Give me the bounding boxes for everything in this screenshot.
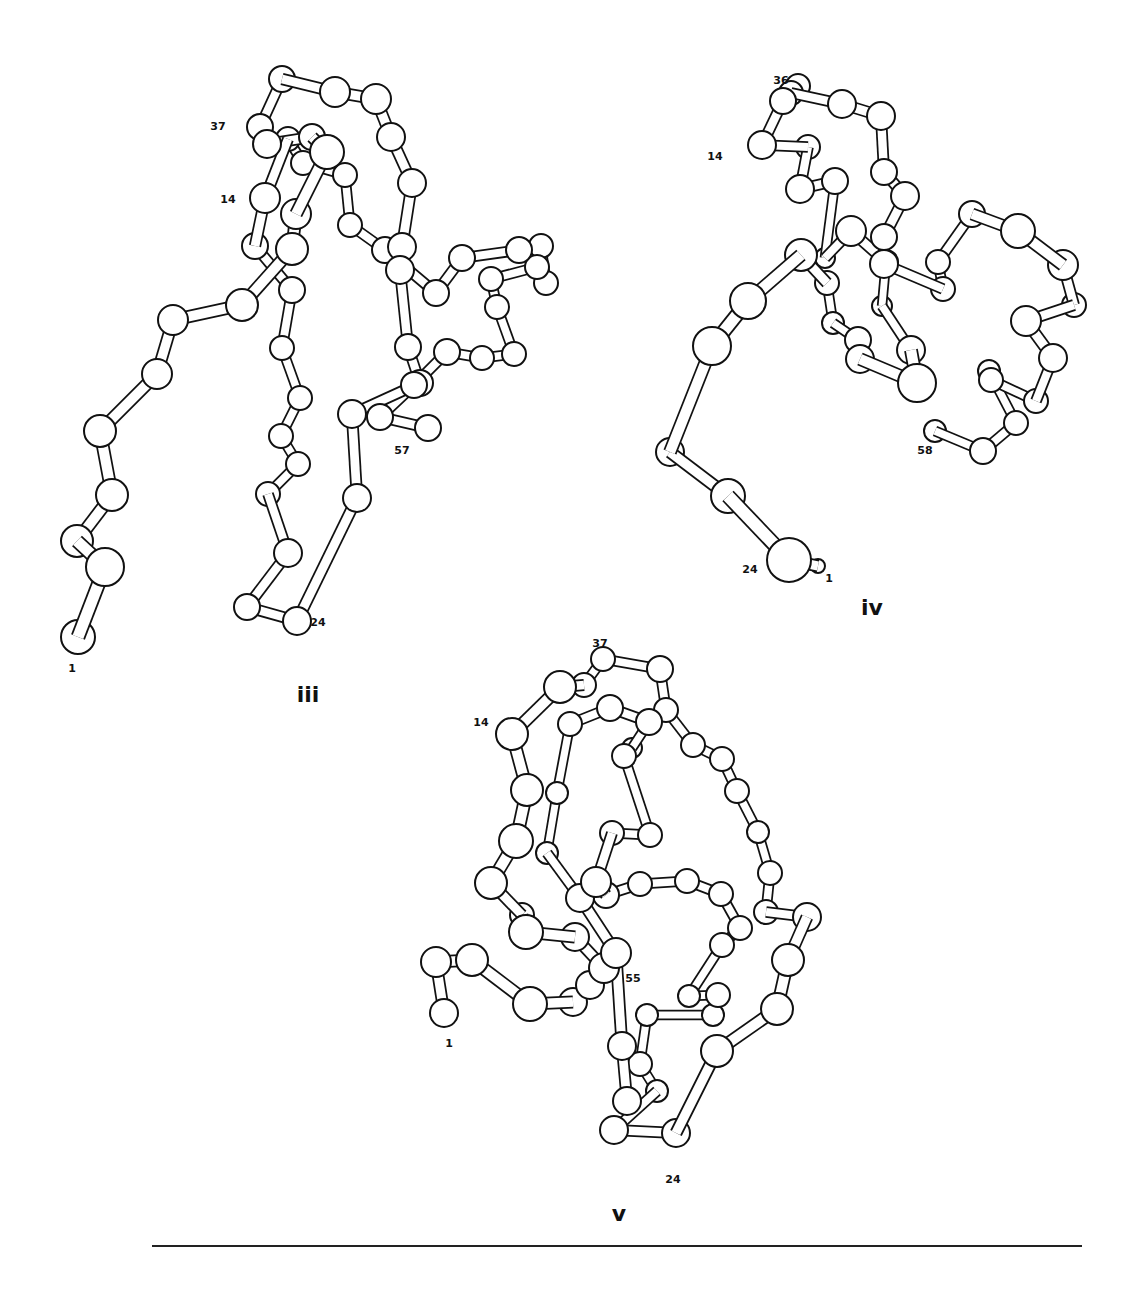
residue-atom <box>600 1116 628 1144</box>
residue-atom <box>638 823 662 847</box>
residue-atom <box>479 267 503 291</box>
residue-number-label: 55 <box>625 972 640 985</box>
residue-atom <box>415 415 441 441</box>
residue-atom <box>485 295 509 319</box>
residue-number-label: 24 <box>310 616 326 629</box>
residue-atom <box>142 359 172 389</box>
residue-atom <box>158 305 188 335</box>
residue-number-label: 36 <box>773 74 789 87</box>
residue-atom <box>286 452 310 476</box>
residue-atom <box>270 336 294 360</box>
residue-atom <box>423 280 449 306</box>
residue-number-label: 1 <box>825 572 833 585</box>
residue-atom <box>496 718 528 750</box>
residue-atom <box>338 400 366 428</box>
residue-atom <box>822 168 848 194</box>
residue-atom <box>591 647 615 671</box>
residue-atom <box>891 182 919 210</box>
residue-atom <box>728 916 752 940</box>
residue-atom <box>449 245 475 271</box>
residue-atom <box>386 256 414 284</box>
residue-atom <box>636 709 662 735</box>
residue-atom <box>343 484 371 512</box>
residue-atom <box>250 183 280 213</box>
residue-atom <box>84 415 116 447</box>
residue-atom <box>871 224 897 250</box>
residue-atom <box>758 861 782 885</box>
residue-number-label: 24 <box>742 563 758 576</box>
residue-atom <box>253 130 281 158</box>
residue-number-label: 14 <box>707 150 723 163</box>
residue-atom <box>499 824 533 858</box>
residue-atom <box>761 993 793 1025</box>
structure-iv: 361458241iv <box>656 74 1086 620</box>
residue-atom <box>361 84 391 114</box>
residue-number-label: 1 <box>445 1037 453 1050</box>
structure-v: 371455124v <box>421 637 821 1226</box>
residue-atom <box>279 277 305 303</box>
residue-atom <box>1001 214 1035 248</box>
residue-atom <box>558 712 582 736</box>
residue-atom <box>730 283 766 319</box>
residue-number-label: 58 <box>917 444 932 457</box>
residue-atom <box>628 872 652 896</box>
residue-atom <box>421 947 451 977</box>
residue-atom <box>608 1032 636 1060</box>
residue-number-label: 37 <box>210 120 225 133</box>
residue-atom <box>546 782 568 804</box>
residue-atom <box>871 159 897 185</box>
protein-backbone-figure: 137145724iii 361458241iv 371455124v <box>0 0 1143 1300</box>
residue-atom <box>581 867 611 897</box>
residue-atom <box>636 1004 658 1026</box>
residue-atom <box>288 386 312 410</box>
residue-number-label: 1 <box>68 662 76 675</box>
residue-atom <box>274 539 302 567</box>
residue-atom <box>613 1087 641 1115</box>
residue-atom <box>511 774 543 806</box>
residue-atom <box>747 821 769 843</box>
residue-atom <box>269 424 293 448</box>
residue-atom <box>678 985 700 1007</box>
residue-atom <box>401 372 427 398</box>
residue-atom <box>772 944 804 976</box>
residue-atom <box>898 364 936 402</box>
residue-atom <box>529 234 553 258</box>
residue-atom <box>970 438 996 464</box>
residue-atom <box>96 479 128 511</box>
residue-number-label: 24 <box>665 1173 681 1186</box>
residue-atom <box>377 123 405 151</box>
structure-iii: 137145724iii <box>61 66 558 707</box>
residue-atom <box>612 744 636 768</box>
residue-atom <box>86 548 124 586</box>
residue-number-label: 37 <box>592 637 607 650</box>
panel-label-iv: iv <box>861 595 884 620</box>
residue-atom <box>367 404 393 430</box>
residue-atom <box>828 90 856 118</box>
residue-atom <box>693 327 731 365</box>
residue-atom <box>470 346 494 370</box>
residue-number-label: 57 <box>394 444 409 457</box>
residue-atom <box>310 135 344 169</box>
residue-atom <box>513 987 547 1021</box>
residue-atom <box>786 175 814 203</box>
residue-atom <box>926 250 950 274</box>
residue-atom <box>475 867 507 899</box>
residue-atom <box>456 944 488 976</box>
residue-atom <box>647 656 673 682</box>
residue-atom <box>867 102 895 130</box>
residue-atom <box>1004 411 1028 435</box>
residue-atom <box>320 77 350 107</box>
residue-atom <box>509 915 543 949</box>
residue-number-label: 14 <box>473 716 489 729</box>
panel-label-iii: iii <box>297 682 320 707</box>
residue-atom <box>601 938 631 968</box>
residue-atom <box>710 747 734 771</box>
residue-atom <box>725 779 749 803</box>
residue-atom <box>234 594 260 620</box>
residue-atom <box>675 869 699 893</box>
residue-atom <box>748 131 776 159</box>
residue-atom <box>709 882 733 906</box>
residue-atom <box>338 213 362 237</box>
residue-atom <box>836 216 866 246</box>
residue-atom <box>398 169 426 197</box>
